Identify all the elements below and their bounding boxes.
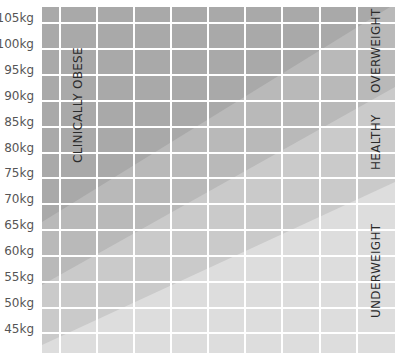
y-tick-label: 95kg <box>4 63 34 77</box>
y-tick-label: 55kg <box>4 270 34 284</box>
y-tick-label: 75kg <box>4 166 34 180</box>
y-tick-label: 65kg <box>4 218 34 232</box>
plot-area <box>0 0 399 361</box>
zone-label-healthy: HEALTHY <box>369 114 383 170</box>
y-tick-label: 70kg <box>4 192 34 206</box>
y-tick-label: 85kg <box>4 115 34 129</box>
y-tick-label: 100kg <box>0 37 34 51</box>
y-tick-label: 105kg <box>0 11 34 25</box>
y-tick-label: 90kg <box>4 89 34 103</box>
zone-label-underweight: UNDERWEIGHT <box>369 224 383 318</box>
y-tick-label: 45kg <box>4 322 34 336</box>
y-tick-label: 60kg <box>4 244 34 258</box>
y-tick-label: 80kg <box>4 141 34 155</box>
zone-label-obese: CLINICALLY OBESE <box>71 47 85 163</box>
y-tick-label: 50kg <box>4 296 34 310</box>
bmi-weight-chart: 105kg 100kg 95kg 90kg 85kg 80kg 75kg 70k… <box>0 0 399 361</box>
zone-label-overweight: OVERWEIGHT <box>369 8 383 93</box>
